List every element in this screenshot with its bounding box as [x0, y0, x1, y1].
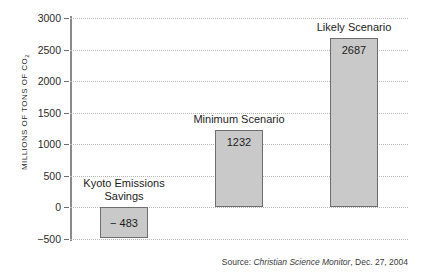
tick-mark-1000: [64, 144, 69, 145]
source-publication: Christian Science Monitor: [253, 257, 350, 267]
bar-kyoto-emissions-savings: − 483: [100, 207, 148, 238]
bar-likely-scenario: 2687: [330, 38, 378, 208]
bar-label-likely-scenario: Likely Scenario: [284, 21, 424, 34]
chart-figure: MILLIONS OF TONS OF CO2 3000 2500 2000 1…: [0, 0, 425, 276]
source-suffix: , Dec. 27, 2004: [350, 257, 408, 267]
tick-mark-2500: [64, 50, 69, 51]
tick-mark-0: [64, 207, 69, 208]
bar-value-likely-scenario: 2687: [331, 44, 377, 56]
source-prefix: Source:: [222, 257, 254, 267]
y-tick-label-1000: 1000: [38, 138, 61, 150]
y-tick-label-minus500: −500: [37, 233, 61, 245]
y-axis-title: MILLIONS OF TONS OF CO2: [14, 0, 36, 232]
bar-label-minimum-line1: Minimum Scenario: [169, 113, 309, 126]
bar-label-minimum-scenario: Minimum Scenario: [169, 113, 309, 126]
bar-minimum-scenario: 1232: [215, 130, 263, 208]
source-note: Source: Christian Science Monitor, Dec. …: [222, 257, 408, 267]
bar-label-kyoto-line2: Savings: [54, 190, 194, 203]
plot-area: 3000 2500 2000 1500 1000 500: [70, 18, 408, 239]
tick-mark-3000: [64, 18, 69, 19]
bar-label-likely-line1: Likely Scenario: [284, 21, 424, 34]
y-tick-label-0: 0: [55, 201, 61, 213]
bar-label-kyoto-emissions-savings: Kyoto Emissions Savings: [54, 177, 194, 203]
bar-value-kyoto-emissions-savings: − 483: [101, 217, 147, 229]
bar-label-kyoto-line1: Kyoto Emissions: [54, 177, 194, 190]
tick-mark-1500: [64, 113, 69, 114]
y-tick-label-2000: 2000: [38, 75, 61, 87]
y-axis-title-text: MILLIONS OF TONS OF CO: [20, 58, 29, 170]
y-axis-title-subscript: 2: [24, 54, 30, 58]
y-tick-label-2500: 2500: [38, 44, 61, 56]
tick-mark-2000: [64, 81, 69, 82]
y-tick-label-1500: 1500: [38, 107, 61, 119]
gridline-3000: [70, 18, 408, 19]
y-tick-label-3000: 3000: [38, 12, 61, 24]
gridline-minus500: [70, 239, 408, 240]
bar-value-minimum-scenario: 1232: [216, 136, 262, 148]
tick-mark-minus500: [64, 239, 69, 240]
